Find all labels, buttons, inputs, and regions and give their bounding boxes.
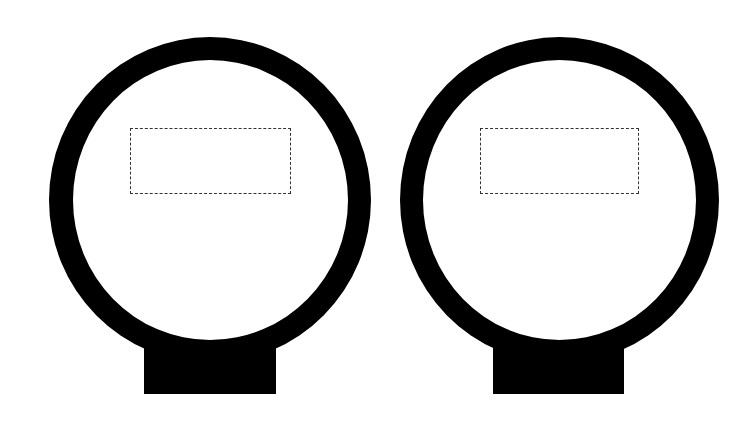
diagram-canvas [0, 0, 754, 422]
left-dashed-frame [130, 128, 291, 194]
right-ring [400, 37, 719, 363]
left-ring [49, 37, 371, 363]
right-dashed-frame [480, 128, 639, 194]
